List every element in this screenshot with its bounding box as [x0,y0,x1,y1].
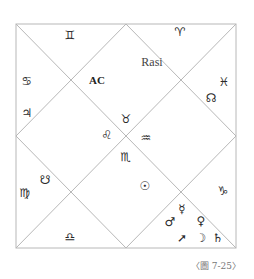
moon-planet-icon: ☽ [196,232,207,244]
scorpio-sign-icon: ♏ [121,151,132,163]
south-node-icon: ☋ [40,174,51,186]
venus-planet-icon: ♀ [197,215,206,227]
cancer-sign-icon: ♋ [22,75,33,87]
ascendant-label: AC [89,75,105,86]
pisces-sign-icon: ♓ [219,76,230,88]
north-node-icon: ☊ [206,92,217,104]
sun-planet-icon: ☉ [140,180,151,192]
saturn-planet-icon: ♄ [213,232,224,244]
leo-sign-icon: ♌ [102,129,113,141]
mercury-planet-icon: ☿ [178,203,185,215]
libra-sign-icon: ♎ [65,231,76,243]
aries-sign-icon: ♈ [175,26,186,38]
virgo-sign-icon: ♍ [20,187,31,199]
aquarius-sign-icon: ♒ [141,132,152,144]
chart-title: Rasi [141,56,162,68]
jupiter-planet-icon: ♃ [22,107,33,119]
taurus-sign-icon: ♉ [121,113,132,125]
gemini-sign-icon: ♊ [65,29,76,41]
mars-planet-icon: ♂ [165,216,176,228]
figure-caption: 〈圖 7-25〉 [191,259,241,272]
sagittarius-sign-icon: ➚ [177,232,187,244]
capricorn-sign-icon: ♑ [218,185,229,197]
